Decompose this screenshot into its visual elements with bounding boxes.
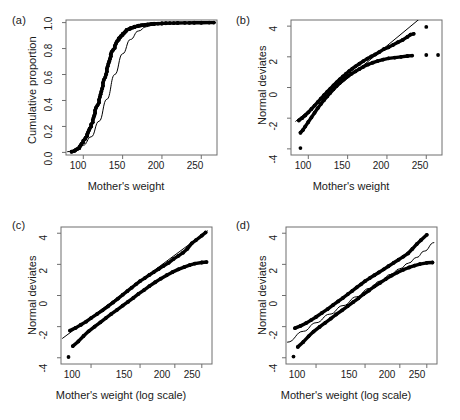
panel-d-ytick-1: -2 [268, 320, 279, 340]
panel-d-xtick-2: 200 [372, 369, 402, 380]
panel-b-xtick-1: 150 [327, 160, 357, 171]
panel-d-ytick-2: 0 [268, 287, 279, 307]
panel-a-xtick-0: 100 [63, 160, 93, 171]
panel-b-label: (b) [236, 14, 250, 26]
panel-a-ytick-5: 1.0 [43, 11, 54, 31]
panel-c-xtick-2: 200 [147, 369, 177, 380]
panel-c-xtick-0: 100 [57, 369, 87, 380]
panel-a-label: (a) [12, 14, 26, 26]
panel-b-ytick-0: -4 [268, 144, 279, 164]
panel-a-ytick-3: 0.6 [43, 65, 54, 85]
panel-a-ytick-4: 0.8 [43, 38, 54, 58]
panel-d: (d) Normal deviates -4 -2 0 2 4 100 150 … [230, 205, 460, 420]
panel-a-xtick-2: 200 [141, 160, 171, 171]
panel-a: (a) Cumulative proportion 0.0 0.2 0.4 0.… [0, 0, 230, 205]
panel-d-ytick-0: -4 [268, 353, 279, 373]
panel-b-ytick-1: -2 [268, 111, 279, 131]
panel-c-label: (c) [12, 219, 25, 231]
panel-a-ytick-0: 0.0 [43, 146, 54, 166]
panel-a-xtick-1: 150 [102, 160, 132, 171]
panel-a-ytick-2: 0.4 [43, 92, 54, 112]
panel-d-y-axis-title: Normal deviates [256, 256, 268, 335]
panel-a-x-axis-title: Mother's weight [36, 180, 216, 192]
panel-b-xtick-3: 250 [405, 160, 435, 171]
panel-c-x-axis-title: Mother's weight (log scale) [16, 389, 226, 401]
panel-b-x-axis-title: Mother's weight [261, 180, 441, 192]
panel-c-ytick-1: -2 [38, 320, 49, 340]
panel-c-ytick-2: 0 [38, 287, 49, 307]
panel-c-ytick-3: 2 [38, 254, 49, 274]
panel-d-ytick-4: 4 [268, 221, 279, 241]
panel-b-ytick-2: 0 [268, 78, 279, 98]
figure-panel-grid: (a) Cumulative proportion 0.0 0.2 0.4 0.… [0, 0, 460, 420]
panel-b-ytick-3: 2 [268, 45, 279, 65]
panel-b: (b) Normal deviates -4 -2 0 2 4 100 150 … [230, 0, 460, 205]
panel-d-xtick-3: 250 [402, 369, 432, 380]
panel-b-ytick-4: 4 [268, 12, 279, 32]
panel-a-y-axis-title: Cumulative proportion [26, 36, 38, 144]
panel-b-xtick-0: 100 [288, 160, 318, 171]
panel-c-y-axis-title: Normal deviates [26, 256, 38, 335]
panel-b-xtick-2: 200 [366, 160, 396, 171]
panel-c-ytick-0: -4 [38, 353, 49, 373]
panel-a-ytick-1: 0.2 [43, 119, 54, 139]
panel-d-xtick-1: 150 [334, 369, 364, 380]
panel-c-xtick-1: 150 [109, 369, 139, 380]
panel-d-ytick-3: 2 [268, 254, 279, 274]
panel-c-xtick-3: 250 [177, 369, 207, 380]
panel-d-label: (d) [236, 219, 250, 231]
panel-a-xtick-3: 250 [180, 160, 210, 171]
panel-c: (c) Normal deviates -4 -2 0 2 4 100 150 … [0, 205, 230, 420]
panel-b-y-axis-title: Normal deviates [256, 46, 268, 125]
panel-d-x-axis-title: Mother's weight (log scale) [241, 389, 451, 401]
panel-d-xtick-0: 100 [282, 369, 312, 380]
panel-c-ytick-4: 4 [38, 221, 49, 241]
